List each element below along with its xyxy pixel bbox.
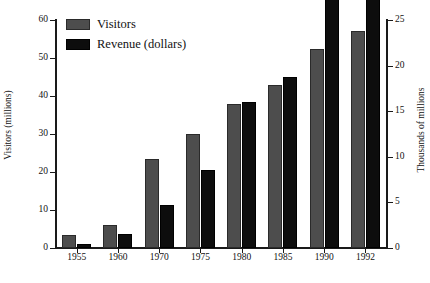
revenue-swatch-icon — [66, 39, 90, 50]
x-tick-label: 1970 — [139, 252, 179, 262]
bar-visitors — [351, 31, 365, 248]
visitors-swatch-icon — [66, 19, 90, 30]
bar-revenue — [366, 0, 380, 248]
bar-visitors — [186, 134, 200, 248]
x-tick-label: 1975 — [180, 252, 220, 262]
left-tick-mark — [50, 58, 55, 59]
right-tick-mark — [388, 248, 393, 249]
right-tick-label: 25 — [395, 15, 405, 25]
left-tick-mark — [50, 172, 55, 173]
right-tick-mark — [388, 20, 393, 21]
right-tick-label: 10 — [395, 152, 405, 162]
bar-revenue — [77, 244, 91, 248]
left-tick-label: 50 — [0, 53, 48, 63]
left-tick-mark — [50, 210, 55, 211]
x-tick-label: 1980 — [222, 252, 262, 262]
left-tick-label: 10 — [0, 205, 48, 215]
bar-revenue — [325, 0, 339, 248]
x-tick-label: 1960 — [98, 252, 138, 262]
right-tick-label: 0 — [395, 243, 400, 253]
legend-item-visitors: Visitors — [66, 17, 186, 32]
legend-label-visitors: Visitors — [97, 18, 136, 31]
right-tick-mark — [388, 202, 393, 203]
bar-visitors — [268, 85, 282, 248]
left-tick-mark — [50, 248, 55, 249]
bar-revenue — [160, 205, 174, 248]
x-tick-label: 1992 — [345, 252, 385, 262]
legend-item-revenue: Revenue (dollars) — [66, 37, 186, 52]
right-tick-mark — [388, 66, 393, 67]
right-tick-mark — [388, 157, 393, 158]
bar-revenue — [242, 102, 256, 248]
bar-revenue — [118, 234, 132, 248]
right-axis-title: Thousands of millions — [416, 70, 426, 190]
right-tick-label: 5 — [395, 197, 400, 207]
bar-revenue — [201, 170, 215, 248]
chart-legend: Visitors Revenue (dollars) — [66, 17, 186, 57]
bar-visitors — [62, 235, 76, 248]
bar-visitors — [145, 159, 159, 248]
left-tick-mark — [50, 134, 55, 135]
bar-visitors — [103, 225, 117, 248]
legend-label-revenue: Revenue (dollars) — [97, 38, 186, 51]
bar-chart: 0102030405060 0510152025 195519601970197… — [0, 0, 430, 283]
bar-visitors — [227, 104, 241, 248]
x-tick-label: 1985 — [263, 252, 303, 262]
right-tick-mark — [388, 111, 393, 112]
left-tick-mark — [50, 20, 55, 21]
x-tick-label: 1955 — [57, 252, 97, 262]
right-tick-label: 15 — [395, 106, 405, 116]
bar-visitors — [310, 49, 324, 248]
right-tick-label: 20 — [395, 61, 405, 71]
left-axis-title: Visitors (millions) — [3, 70, 13, 180]
left-tick-label: 0 — [0, 243, 48, 253]
x-tick-label: 1990 — [304, 252, 344, 262]
bar-revenue — [283, 77, 297, 248]
left-tick-mark — [50, 96, 55, 97]
left-tick-label: 60 — [0, 15, 48, 25]
right-axis-line — [386, 19, 388, 249]
